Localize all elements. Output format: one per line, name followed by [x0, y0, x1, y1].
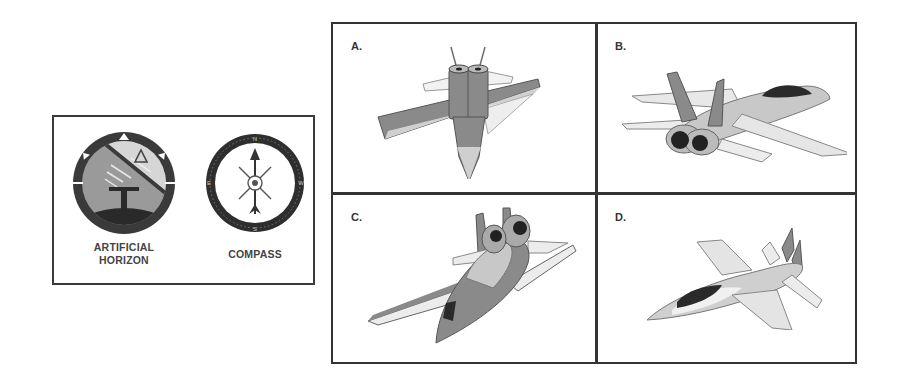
option-d-label: D. [615, 211, 626, 223]
artificial-horizon-label: ARTIFICIAL HORIZON [69, 241, 179, 267]
compass-label: COMPASS [204, 248, 306, 261]
option-d[interactable]: D. [597, 195, 859, 363]
svg-text:N: N [253, 136, 257, 142]
svg-text:W: W [298, 180, 304, 186]
option-b[interactable]: B. [597, 24, 859, 192]
option-c[interactable]: C. [333, 195, 595, 363]
instrument-panel: ARTIFICIAL HORIZON N S E W COMPASS [52, 115, 315, 285]
jet-rear-view-banked-icon [373, 39, 563, 179]
option-c-label: C. [351, 211, 362, 223]
artificial-horizon-icon [71, 130, 177, 236]
option-a[interactable]: A. [333, 24, 595, 192]
compass-icon: N S E W [204, 132, 306, 234]
svg-text:E: E [207, 180, 211, 186]
jet-front-quarter-left-icon [642, 220, 837, 330]
svg-text:S: S [253, 226, 257, 232]
label-line-2: HORIZON [69, 254, 179, 267]
options-grid: A. B. [331, 22, 857, 364]
jet-diving-banked-icon [368, 203, 578, 353]
option-b-label: B. [615, 40, 626, 52]
label-line-1: ARTIFICIAL [69, 241, 179, 254]
option-a-label: A. [351, 40, 362, 52]
jet-rear-quarter-left-icon [622, 54, 847, 164]
